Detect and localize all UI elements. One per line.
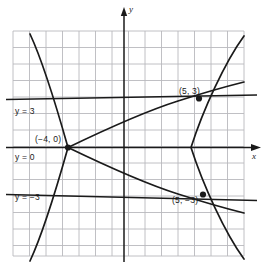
label-line-y-equals-0: y = 0 [15,152,35,162]
y-axis-label: y [129,4,133,14]
sideways-curve-lower-branch [68,148,244,214]
y-axis-arrowhead [121,7,127,16]
point-marker-vertex-left [65,144,71,150]
label-point-lower-right: (5, −3) [172,195,198,205]
x-axis-arrowhead [251,144,261,151]
label-point-vertex-left: (−4, 0) [35,134,61,144]
label-line-y-equals-minus-3: y = −3 [15,192,40,202]
point-marker-lower-right [200,191,206,197]
graph-figure: y = 3 y = 0 y = −3 (−4, 0) (5, 3) (5, −3… [0,0,270,275]
label-point-upper-right: (5, 3) [179,86,200,96]
x-axis-label: x [252,151,256,161]
line-y-equals-minus-3 [6,195,257,201]
sideways-curve-upper-branch [68,82,244,148]
point-marker-upper-right [196,95,202,101]
label-line-y-equals-3: y = 3 [15,106,35,116]
